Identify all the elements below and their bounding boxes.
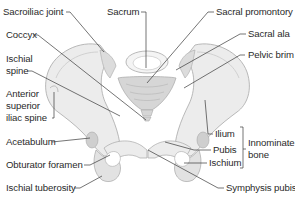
leader-acetabulum <box>52 138 90 142</box>
coccyx-shape <box>141 110 153 121</box>
label-coccyx: Coccyx <box>6 29 37 40</box>
label-asis-line2: superior <box>6 100 40 111</box>
label-ischium: Ischium <box>209 157 241 168</box>
label-pelvic-brim: Pelvic brim <box>248 49 294 60</box>
label-ischial-spine-line1: Ischial <box>6 53 33 64</box>
label-sacral-promontory: Sacral promontory <box>216 6 293 17</box>
label-asis-line3: iliac spine <box>6 112 47 123</box>
left-obturator-foramen <box>105 152 120 167</box>
sacral-canal <box>133 56 161 70</box>
label-sacrum: Sacrum <box>107 6 139 17</box>
label-symphysis-pubis: Symphysis pubis <box>226 182 295 193</box>
label-obturator-foramen: Obturator foramen <box>6 159 83 170</box>
label-innominate-line2: bone <box>248 149 269 160</box>
label-acetabulum: Acetabulum <box>6 136 56 147</box>
label-sacral-ala: Sacral ala <box>248 28 290 39</box>
label-innominate-line1: Innominate <box>248 137 294 148</box>
label-pubis: Pubis <box>213 144 237 155</box>
right-acetabulum <box>197 132 209 148</box>
left-acetabulum <box>86 132 98 148</box>
label-ischial-tuberosity: Ischial tuberosity <box>6 182 76 193</box>
pelvis-diagram: Sacroiliac joint Sacrum Sacral promontor… <box>0 0 295 201</box>
right-obturator-foramen <box>175 152 190 167</box>
label-sacroiliac-joint: Sacroiliac joint <box>3 6 63 17</box>
label-asis-line1: Anterior <box>6 88 39 99</box>
label-ilium: Ilium <box>215 128 235 139</box>
leader-ischial-tuberosity <box>74 176 102 188</box>
label-ischial-spine-line2: spine <box>6 65 28 76</box>
